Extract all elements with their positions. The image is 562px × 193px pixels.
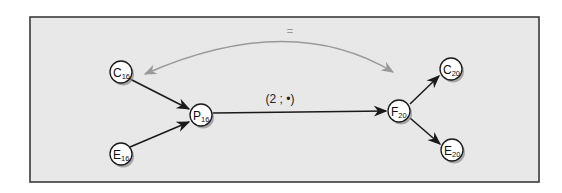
edge-p16-to-f20-label: (2 ; •) <box>266 92 295 106</box>
flow-diagram: = (2 ; •) C16 E16 P16 F20 C20 E20 <box>0 0 562 193</box>
equality-label: = <box>287 25 293 37</box>
